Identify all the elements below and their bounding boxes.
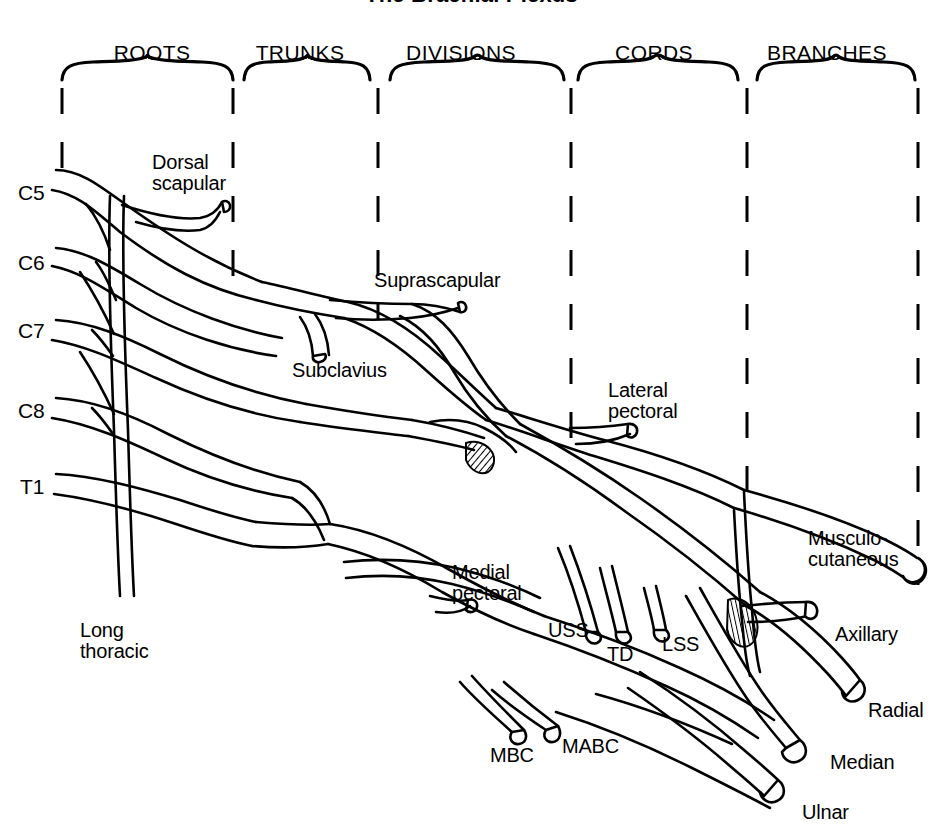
lateral-pectoral-branch [570,424,628,428]
root-label-t1: T1 [20,476,44,498]
root-c8 [56,398,300,482]
nerve-label-long-thoracic: Longthoracic [80,620,148,662]
dorsal-scapular-branch [122,202,222,218]
nerve-label-mabc: MABC [562,736,619,757]
nerve-label-axillary: Axillary [835,624,898,645]
root-label-c6: C6 [18,252,44,274]
division-hatch-marker [466,442,494,473]
section-title-cords: CORDS [574,42,734,64]
nerve-label-lss: LSS [662,634,699,655]
ulnar-nerve [640,672,778,780]
upper-trunk [262,282,348,302]
nerve-label-ulnar: Ulnar [802,802,849,823]
root-label-c5: C5 [18,182,44,204]
section-title-branches: BRANCHES [747,42,907,64]
brachial-plexus-diagram: The Brachial Plexus [0,0,943,839]
nerve-label-mbc: MBC [490,745,534,766]
middle-trunk [306,404,412,420]
nerve-label-subclavius: Subclavius [292,360,387,381]
nerve-label-suprascapular: Suprascapular [374,270,500,291]
nerve-label-dorsal-scapular: Dorsalscapular [152,152,226,194]
root-label-c7: C7 [18,320,44,342]
nerve-label-radial: Radial [868,700,924,721]
section-title-trunks: TRUNKS [220,42,380,64]
lower-trunk [256,522,330,525]
upper-anterior-division [348,302,496,408]
section-title-divisions: DIVISIONS [381,42,541,64]
nerve-label-td: TD [607,644,633,665]
subclavius-branch [300,317,313,356]
root-label-c8: C8 [18,400,44,422]
nerve-label-lateral-pectoral: Lateralpectoral [608,380,678,422]
nerve-label-medial-pectoral: Medialpectoral [452,562,522,604]
plexus-line-art [0,0,943,839]
nerve-label-musculocutaneous: Musculo-cutaneous [808,528,899,570]
lss-branch [644,588,654,630]
nerve-label-median: Median [830,752,894,773]
long-thoracic-nerve [109,196,120,596]
nerve-label-uss: USS [548,620,589,641]
section-title-roots: ROOTS [72,42,232,64]
